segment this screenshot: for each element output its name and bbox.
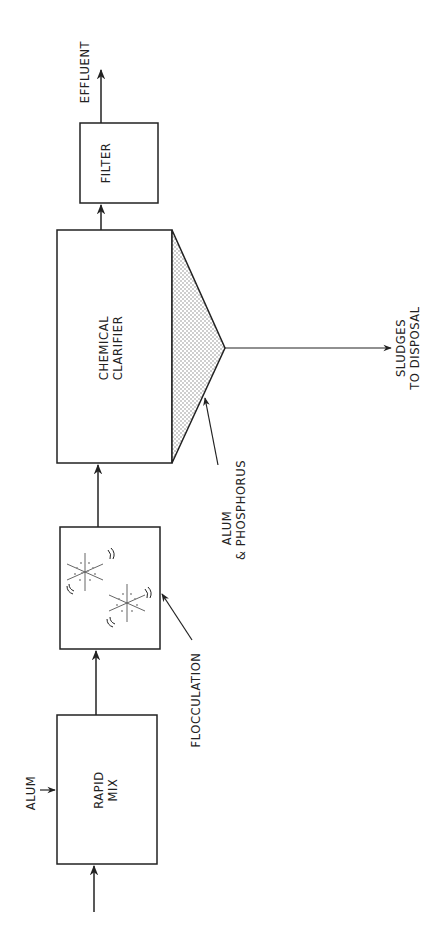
sludge-label-line1: SLUDGES <box>394 319 408 377</box>
filter-label: FILTER <box>99 143 113 184</box>
flocculation-label: FLOCCULATION <box>189 652 203 747</box>
alum-phosphorus-leader <box>205 398 218 465</box>
sludge-hopper <box>172 230 225 463</box>
sludge-label-line2: TO DISPOSAL <box>408 306 422 391</box>
process-flow-diagram: RAPID MIX ALUM <box>0 0 443 944</box>
chemical-clarifier-box: CHEMICAL CLARIFIER <box>57 230 225 463</box>
alum-input-label: ALUM <box>24 776 38 810</box>
rapid-mix-label-line1: RAPID <box>92 771 106 809</box>
rapid-mix-box: RAPID MIX <box>57 715 157 864</box>
hopper-label-line1: ALUM <box>220 511 234 545</box>
effluent-label: EFFLUENT <box>78 40 92 103</box>
hopper-label-line2: & PHOSPHORUS <box>234 460 248 560</box>
clarifier-label-line1: CHEMICAL <box>97 316 111 380</box>
rapid-mix-label-line2: MIX <box>106 779 120 802</box>
flocculation-box <box>60 527 160 649</box>
clarifier-label-line2: CLARIFIER <box>111 316 125 381</box>
filter-box: FILTER <box>80 123 158 203</box>
flocculation-leader <box>162 594 192 640</box>
